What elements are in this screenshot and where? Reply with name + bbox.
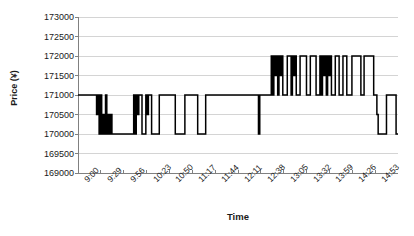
x-axis-title: Time: [78, 211, 398, 222]
plot-canvas: [0, 0, 414, 236]
price-time-chart: Price (¥) 173000172500172000171500171000…: [0, 0, 414, 236]
